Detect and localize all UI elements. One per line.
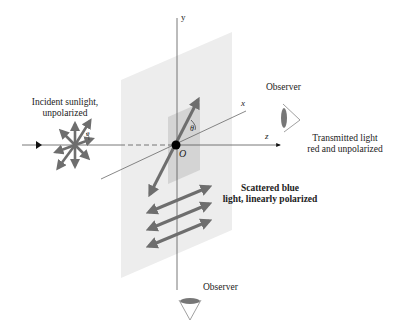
scattered-label: Scattered blue light, linearly polarized: [210, 183, 330, 205]
transmitted-label: Transmitted light red and unpolarized: [290, 133, 400, 155]
observer-bottom-label: Observer: [203, 282, 238, 293]
incident-label-line2: unpolarized: [10, 108, 120, 119]
polarization-diagram: [0, 0, 400, 334]
transmitted-label-line2: red and unpolarized: [290, 144, 400, 155]
origin-label: O: [179, 148, 186, 159]
observer-right-label: Observer: [266, 82, 301, 93]
incident-label-line1: Incident sunlight,: [10, 97, 120, 108]
z-axis-label: z: [265, 131, 269, 141]
incident-arrowhead: [36, 141, 42, 149]
x-axis-label: x: [241, 98, 245, 108]
transmitted-label-line1: Transmitted light: [290, 133, 400, 144]
unpolarized-starburst-icon: [56, 121, 92, 168]
incident-label: Incident sunlight, unpolarized: [10, 97, 120, 119]
scattered-label-line1: Scattered blue: [210, 183, 330, 194]
starburst-theta-label: θ: [86, 130, 89, 138]
y-axis-label: y: [181, 12, 186, 22]
observer-eye-bottom-icon: [179, 298, 201, 320]
theta-label: θ: [190, 124, 194, 133]
observer-eye-right-icon: [281, 104, 300, 132]
scattered-label-line2: light, linearly polarized: [210, 194, 330, 205]
